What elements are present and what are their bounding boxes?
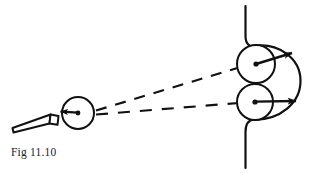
lower-ball-velocity-arrow (255, 101, 296, 102)
cue-stick-shaft (13, 115, 51, 133)
cue-stick-tip (50, 115, 59, 125)
figure-container: Fig 11.10 (0, 0, 319, 173)
cue-ball (61, 97, 95, 129)
cue-stick (13, 115, 59, 133)
figure-caption: Fig 11.10 (11, 145, 56, 159)
top-rail (246, 6, 257, 47)
lower-target-ball (237, 84, 296, 120)
cue-ball-velocity-arrow (61, 112, 79, 113)
bottom-rail (246, 120, 255, 169)
trajectory-lines (96, 68, 239, 115)
